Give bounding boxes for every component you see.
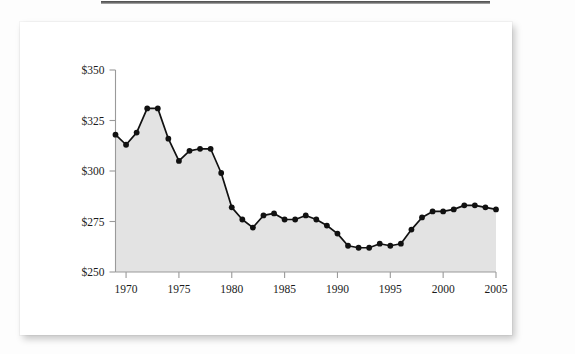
page-background: $250$275$300$325$350 1970197519801985199… bbox=[0, 0, 575, 354]
data-point-1985 bbox=[282, 217, 288, 223]
data-point-1983 bbox=[261, 213, 267, 219]
data-point-2000 bbox=[440, 209, 446, 215]
x-tick-label-2005: 2005 bbox=[485, 283, 508, 295]
x-axis-tick-labels: 19701975198019851990199520002005 bbox=[115, 283, 508, 295]
data-point-1978 bbox=[208, 146, 214, 152]
data-point-1974 bbox=[165, 136, 171, 142]
data-point-1981 bbox=[239, 217, 245, 223]
series-area-fill bbox=[116, 108, 497, 272]
y-tick-label-300: $300 bbox=[82, 165, 105, 177]
x-tick-label-1975: 1975 bbox=[167, 283, 190, 295]
data-point-1994 bbox=[377, 241, 383, 247]
data-point-1999 bbox=[430, 209, 436, 215]
x-tick-label-1990: 1990 bbox=[326, 283, 349, 295]
data-point-1982 bbox=[250, 225, 256, 231]
data-point-1987 bbox=[303, 213, 309, 219]
data-point-1995 bbox=[387, 243, 393, 249]
data-point-1971 bbox=[134, 130, 140, 136]
data-point-1977 bbox=[197, 146, 203, 152]
data-point-1997 bbox=[409, 227, 415, 233]
y-axis-tick-labels: $250$275$300$325$350 bbox=[82, 64, 105, 278]
y-tick-label-350: $350 bbox=[82, 64, 105, 76]
data-point-1972 bbox=[144, 105, 150, 111]
chart-svg: $250$275$300$325$350 1970197519801985199… bbox=[0, 0, 575, 354]
x-tick-label-2000: 2000 bbox=[432, 283, 455, 295]
data-point-1980 bbox=[229, 204, 235, 210]
x-tick-label-1980: 1980 bbox=[220, 283, 243, 295]
x-tick-label-1995: 1995 bbox=[379, 283, 402, 295]
data-point-1989 bbox=[324, 223, 330, 229]
x-tick-label-1985: 1985 bbox=[273, 283, 296, 295]
data-point-2002 bbox=[461, 202, 467, 208]
data-point-1990 bbox=[335, 231, 341, 237]
data-point-1996 bbox=[398, 241, 404, 247]
y-tick-label-275: $275 bbox=[82, 216, 105, 228]
data-point-2004 bbox=[483, 204, 489, 210]
data-point-2005 bbox=[493, 206, 499, 212]
data-point-1993 bbox=[366, 245, 372, 251]
line-chart: $250$275$300$325$350 1970197519801985199… bbox=[0, 0, 575, 354]
data-point-1991 bbox=[345, 243, 351, 249]
data-point-1976 bbox=[187, 148, 193, 154]
data-point-1986 bbox=[292, 217, 298, 223]
data-point-1984 bbox=[271, 211, 277, 217]
data-point-1973 bbox=[155, 105, 161, 111]
data-point-1998 bbox=[419, 215, 425, 221]
y-tick-label-250: $250 bbox=[82, 266, 105, 278]
data-point-1992 bbox=[356, 245, 362, 251]
data-point-1975 bbox=[176, 158, 182, 164]
x-axis-ticks bbox=[126, 272, 496, 278]
y-tick-label-325: $325 bbox=[82, 115, 105, 127]
data-point-2003 bbox=[472, 202, 478, 208]
data-point-1970 bbox=[123, 142, 129, 148]
data-point-1979 bbox=[218, 170, 224, 176]
y-axis-ticks bbox=[110, 70, 116, 272]
data-point-2001 bbox=[451, 206, 457, 212]
data-point-1988 bbox=[313, 217, 319, 223]
data-point-1969 bbox=[113, 132, 119, 138]
x-tick-label-1970: 1970 bbox=[115, 283, 138, 295]
